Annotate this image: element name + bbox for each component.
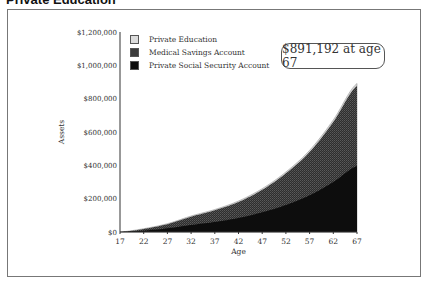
y-tick-label: $800,000: [84, 95, 117, 103]
x-axis-label: Age: [230, 247, 246, 256]
swatch-icon: [130, 35, 139, 44]
x-tick-label: 62: [329, 237, 339, 246]
y-axis-label: Assets: [57, 120, 66, 146]
y-tick-label: $400,000: [84, 162, 117, 170]
x-tick-label: 27: [163, 237, 173, 246]
x-tick-label: 22: [139, 237, 149, 246]
x-tick-label: 57: [305, 237, 315, 246]
x-tick-label: 17: [115, 237, 125, 246]
legend: Private Education Medical Savings Accoun…: [130, 33, 269, 72]
x-tick-label: 42: [234, 237, 244, 246]
x-tick-label: 32: [186, 237, 196, 246]
x-tick-label: 47: [257, 237, 267, 246]
legend-item-medical-savings: Medical Savings Account: [130, 46, 269, 58]
x-tick-label: 52: [281, 237, 291, 246]
legend-item-private-education: Private Education: [130, 33, 269, 45]
y-tick-label: $600,000: [84, 129, 117, 137]
swatch-icon: [130, 48, 139, 57]
y-tick-label: $200,000: [84, 195, 117, 203]
y-tick-label: $0: [108, 229, 117, 237]
x-tick-label: 67: [352, 237, 362, 246]
swatch-icon: [130, 61, 139, 70]
legend-item-social-security: Private Social Security Account: [130, 59, 269, 71]
value-callout: $891,192 at age 67: [281, 43, 385, 69]
x-tick-label: 37: [210, 237, 220, 246]
y-tick-label: $1,200,000: [77, 29, 117, 37]
y-tick-label: $1,000,000: [77, 62, 117, 70]
stacked-areas: [120, 83, 357, 232]
